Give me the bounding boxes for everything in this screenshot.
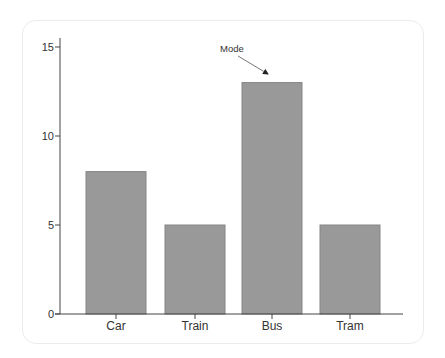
bar-chart: 051015 CarTrainBusTram Mode bbox=[0, 0, 445, 358]
x-tick-label-bus: Bus bbox=[262, 319, 283, 333]
mode-annotation-arrow bbox=[238, 56, 268, 74]
bar-tram bbox=[320, 225, 380, 314]
bar-group bbox=[86, 83, 380, 314]
y-tick-label: 0 bbox=[48, 308, 54, 320]
y-tick-label: 15 bbox=[42, 41, 54, 53]
y-tick-label: 5 bbox=[48, 219, 54, 231]
x-axis-ticks: CarTrainBusTram bbox=[106, 314, 363, 333]
y-axis-ticks: 051015 bbox=[42, 41, 60, 320]
y-tick-label: 10 bbox=[42, 130, 54, 142]
x-tick-label-car: Car bbox=[106, 319, 125, 333]
bar-train bbox=[165, 225, 225, 314]
bar-bus bbox=[242, 83, 302, 314]
bar-car bbox=[86, 172, 146, 314]
x-tick-label-train: Train bbox=[182, 319, 209, 333]
mode-annotation-label: Mode bbox=[220, 43, 244, 54]
x-tick-label-tram: Tram bbox=[336, 319, 364, 333]
